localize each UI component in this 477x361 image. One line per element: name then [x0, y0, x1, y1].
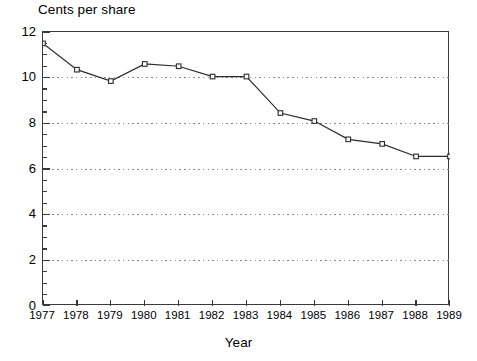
y-tick-label: 12 — [8, 25, 36, 38]
chart-title: Cents per share — [38, 2, 136, 17]
plot-canvas — [43, 32, 450, 306]
data-point-marker — [176, 64, 181, 69]
data-point-marker — [278, 111, 283, 116]
plot-area — [42, 31, 449, 305]
x-tick-label: 1989 — [429, 309, 469, 321]
data-point-marker — [210, 74, 215, 79]
data-point-marker — [448, 154, 450, 159]
x-axis-title: Year — [0, 335, 477, 350]
y-tick-label: 8 — [8, 116, 36, 129]
data-point-marker — [346, 137, 351, 142]
line-chart: Cents per share 024681012 19771978197919… — [0, 0, 477, 361]
y-tick-label: 6 — [8, 162, 36, 175]
data-point-marker — [43, 41, 45, 46]
data-point-marker — [142, 62, 147, 67]
y-axis-tick-labels: 024681012 — [4, 0, 36, 361]
x-axis-tick-labels: 1977197819791980198119821983198419851986… — [0, 309, 477, 329]
data-point-marker — [75, 67, 80, 72]
data-point-marker — [109, 79, 114, 84]
y-tick-label: 10 — [8, 70, 36, 83]
data-point-marker — [312, 119, 317, 124]
data-point-marker — [380, 142, 385, 147]
data-point-marker — [414, 154, 419, 159]
data-point-marker — [244, 74, 249, 79]
y-tick-label: 2 — [8, 253, 36, 266]
y-tick-label: 4 — [8, 207, 36, 220]
data-line-cents-per-share — [43, 43, 450, 156]
